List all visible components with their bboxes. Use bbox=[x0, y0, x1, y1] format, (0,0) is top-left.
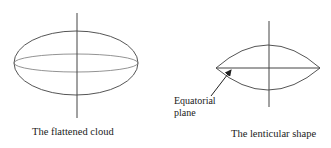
annotation-label-line1: Equatorial bbox=[174, 95, 216, 106]
flattened-cloud-figure: The flattened cloud bbox=[14, 13, 138, 137]
diagram-canvas: The flattened cloud Equatorial plane The… bbox=[0, 0, 331, 148]
lens-upper-arc bbox=[216, 45, 320, 68]
lens-lower-arc bbox=[216, 68, 320, 90]
annotation-arrow bbox=[211, 70, 231, 96]
lens-caption: The lenticular shape bbox=[231, 128, 316, 139]
cloud-caption: The flattened cloud bbox=[32, 126, 114, 137]
lenticular-figure: Equatorial plane The lenticular shape bbox=[174, 21, 320, 139]
annotation-label-line2: plane bbox=[174, 107, 196, 118]
cloud-equator bbox=[14, 54, 138, 72]
cloud-outline bbox=[14, 31, 138, 95]
